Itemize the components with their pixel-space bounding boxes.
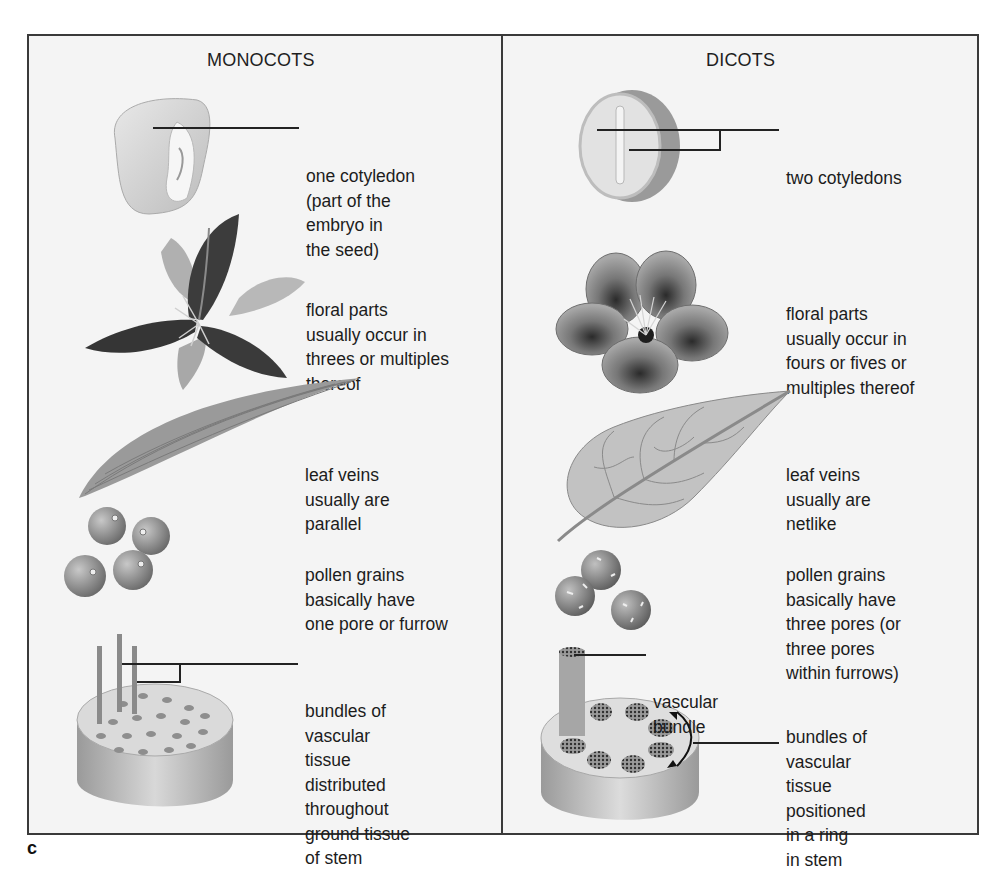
netted-vein-leaf-icon xyxy=(554,387,794,547)
scattered-bundle-stem-icon xyxy=(73,640,243,830)
leader-line xyxy=(597,129,779,131)
leader-line xyxy=(693,742,779,744)
column-divider xyxy=(501,36,503,833)
five-petal-flower-icon xyxy=(556,249,731,394)
vascular-bundle-label: vascularbundle xyxy=(653,641,718,788)
leader-line xyxy=(122,663,298,665)
leader-line xyxy=(153,127,299,129)
pollen-grains-icon xyxy=(55,496,205,596)
comparison-frame: MONOCOTS one cotyledon(part of theembryo… xyxy=(27,34,979,835)
corn-kernel-icon xyxy=(79,88,219,218)
dicots-title: DICOTS xyxy=(706,50,775,71)
lily-flower-icon xyxy=(79,208,309,393)
leader-line xyxy=(629,149,721,151)
monocot-stem-label: bundles ofvasculartissuedistributedthrou… xyxy=(305,650,410,870)
panel-letter: c xyxy=(27,838,37,859)
pollen-grains-icon xyxy=(545,548,665,634)
leader-line xyxy=(719,129,721,150)
leader-line xyxy=(179,663,181,682)
bean-seed-icon xyxy=(574,88,684,206)
dicot-seed-label: two cotyledons xyxy=(786,117,902,240)
monocots-title: MONOCOTS xyxy=(207,50,315,71)
leader-line xyxy=(137,681,181,683)
dicot-stem-label: bundles ofvasculartissuepositionedin a r… xyxy=(786,676,867,870)
leader-line xyxy=(574,654,646,656)
